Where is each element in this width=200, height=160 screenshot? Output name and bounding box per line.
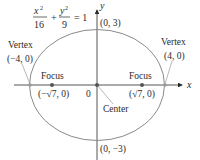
- focus-left-title: Focus: [41, 71, 64, 81]
- focus-left-point: [50, 83, 54, 87]
- eq-y-denominator: 9: [62, 19, 67, 30]
- vertex-left-point: [28, 83, 32, 87]
- center-label: Center: [103, 104, 129, 114]
- eq-equals: = 1: [74, 12, 87, 23]
- vertex-right-coords: (4, 0): [164, 51, 185, 62]
- eq-plus: +: [51, 12, 57, 23]
- focus-right-point: [140, 83, 144, 87]
- vertex-right-point: [163, 83, 167, 87]
- vertex-right-title: Vertex: [161, 37, 186, 47]
- y-axis-label: y: [99, 0, 105, 11]
- ellipse-equation: x 2 16 + y 2 9 = 1: [33, 5, 87, 30]
- vertex-left-leader: [22, 64, 30, 84]
- top-vertex-label: (0, 3): [100, 18, 121, 29]
- eq-x-numerator: x: [33, 5, 39, 16]
- origin-label: 0: [86, 89, 91, 99]
- center-leader: [98, 86, 113, 104]
- vertex-left-coords: (−4, 0): [7, 54, 33, 65]
- focus-right-coords: (√7, 0): [129, 89, 155, 100]
- vertex-right-leader: [165, 61, 172, 84]
- vertex-left-title: Vertex: [8, 40, 33, 50]
- bottom-vertex-label: (0, −3): [100, 144, 126, 155]
- focus-left-coords: (−√7, 0): [38, 89, 69, 100]
- x-axis-label: x: [186, 79, 192, 90]
- ellipse-diagram: x 2 16 + y 2 9 = 1 x y Vertex (−4, 0) Ve…: [0, 0, 200, 160]
- eq-x-denominator: 16: [34, 19, 44, 30]
- eq-y-exponent: 2: [65, 5, 68, 11]
- eq-x-exponent: 2: [40, 5, 43, 11]
- center-point: [95, 83, 99, 87]
- focus-right-title: Focus: [129, 71, 152, 81]
